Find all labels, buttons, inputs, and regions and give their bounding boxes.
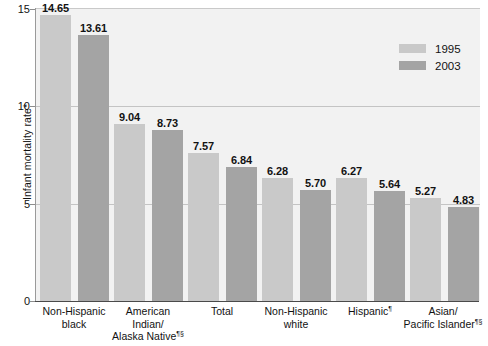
bar-value-label: 6.84 [231,154,252,166]
bar-value-label: 5.70 [305,177,326,189]
x-label-text: Pacific Islander [404,318,475,330]
bar-value-label: 4.83 [453,194,474,206]
x-label-line: American [106,305,190,318]
legend-swatch-icon-2003 [399,61,426,70]
x-axis-label-non-hispanic-white: Non-Hispanic white [254,305,338,330]
x-label-text: Alaska Native [112,330,176,342]
y-tick-label-15: 15 [6,3,30,15]
bar-value-label: 6.28 [267,165,288,177]
x-label-line: black [32,318,116,331]
bar-group-american-indian-alaska-native: 9.04 8.73 [112,8,186,301]
x-axis-label-american-indian-alaska-native: American Indian/ Alaska Native¶§ [106,305,190,343]
bar-total-2003: 6.84 [226,167,257,301]
x-label-text: Hispanic [348,305,388,317]
bar-american-indian-alaska-native-2003: 8.73 [152,130,183,301]
x-label-line: Pacific Islander¶§ [398,318,488,331]
x-axis-label-total: Total [180,305,264,318]
x-label-line: Non-Hispanic [32,305,116,318]
bar-value-label: 13.61 [80,22,107,34]
bar-value-label: 9.04 [119,111,140,123]
x-label-line: white [254,318,338,331]
legend-swatch-icon-1995 [399,44,426,53]
bar-non-hispanic-white-2003: 5.70 [300,190,331,301]
legend-label-1995: 1995 [435,43,461,55]
bar-value-label: 5.64 [379,178,400,190]
bar-group-hispanic: 6.27 5.64 [334,8,408,301]
bar-asian-pacific-islander-2003: 4.83 [448,207,479,301]
footnote-marker: ¶§ [475,317,483,324]
x-axis-label-non-hispanic-black: Non-Hispanic black [32,305,116,330]
y-tick-label-0: 0 [6,295,30,307]
bar-group-non-hispanic-white: 6.28 5.70 [260,8,334,301]
bar-value-label: 7.57 [193,140,214,152]
footnote-marker: ¶ [388,305,392,312]
legend: 1995 2003 [399,40,461,74]
x-label-line: Total [180,305,264,318]
legend-label-2003: 2003 [435,60,461,72]
x-axis-label-asian-pacific-islander: Asian/ Pacific Islander¶§ [398,305,488,330]
legend-item-2003: 2003 [399,57,461,74]
x-label-line: Asian/ [398,305,488,318]
plot-area: 14.65 13.61 9.04 8.73 7.57 6.84 [35,8,480,301]
infant-mortality-bar-chart: Infant mortality rate* 15 10 5 0 14.65 1… [0,0,488,346]
bar-value-label: 5.27 [415,185,436,197]
bar-group-non-hispanic-black: 14.65 13.61 [38,8,112,301]
bar-value-label: 6.27 [341,165,362,177]
footnote-marker: ¶§ [176,330,184,337]
y-tick-label-10: 10 [6,100,30,112]
bar-hispanic-2003: 5.64 [374,191,405,301]
bar-non-hispanic-white-1995: 6.28 [262,178,293,301]
y-axis-ticks: 15 10 5 0 [0,0,30,346]
bar-non-hispanic-black-2003: 13.61 [78,35,109,301]
bar-total-1995: 7.57 [188,153,219,301]
bar-value-label: 8.73 [157,117,178,129]
x-label-line: Alaska Native¶§ [106,330,190,343]
y-tick-label-5: 5 [6,198,30,210]
x-label-line: Non-Hispanic [254,305,338,318]
bar-value-label: 14.65 [42,2,69,14]
bar-american-indian-alaska-native-1995: 9.04 [114,124,145,301]
bar-hispanic-1995: 6.27 [336,178,367,301]
legend-item-1995: 1995 [399,40,461,57]
x-axis-baseline [35,301,479,302]
bar-non-hispanic-black-1995: 14.65 [40,15,71,301]
bar-group-total: 7.57 6.84 [186,8,260,301]
x-label-line: Indian/ [106,318,190,331]
bar-asian-pacific-islander-1995: 5.27 [410,198,441,301]
